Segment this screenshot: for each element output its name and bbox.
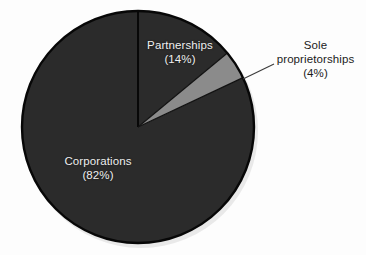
pie-label-sole-proprietorships-name-line1: Sole (266, 38, 365, 52)
pie-label-partnerships-name: Partnerships (134, 38, 226, 52)
pie-label-partnerships-value: (14%) (134, 52, 226, 66)
pie-label-partnerships: Partnerships (14%) (134, 38, 226, 66)
pie-label-corporations-name: Corporations (48, 154, 148, 168)
pie-chart-figure: Partnerships (14%) Sole proprietorships … (0, 0, 366, 255)
pie-label-corporations: Corporations (82%) (48, 154, 148, 182)
pie-label-sole-proprietorships-value: (4%) (266, 66, 365, 80)
pie-label-corporations-value: (82%) (48, 168, 148, 182)
pie-label-sole-proprietorships: Sole proprietorships (4%) (266, 38, 365, 80)
pie-label-sole-proprietorships-name-line2: proprietorships (266, 52, 365, 66)
